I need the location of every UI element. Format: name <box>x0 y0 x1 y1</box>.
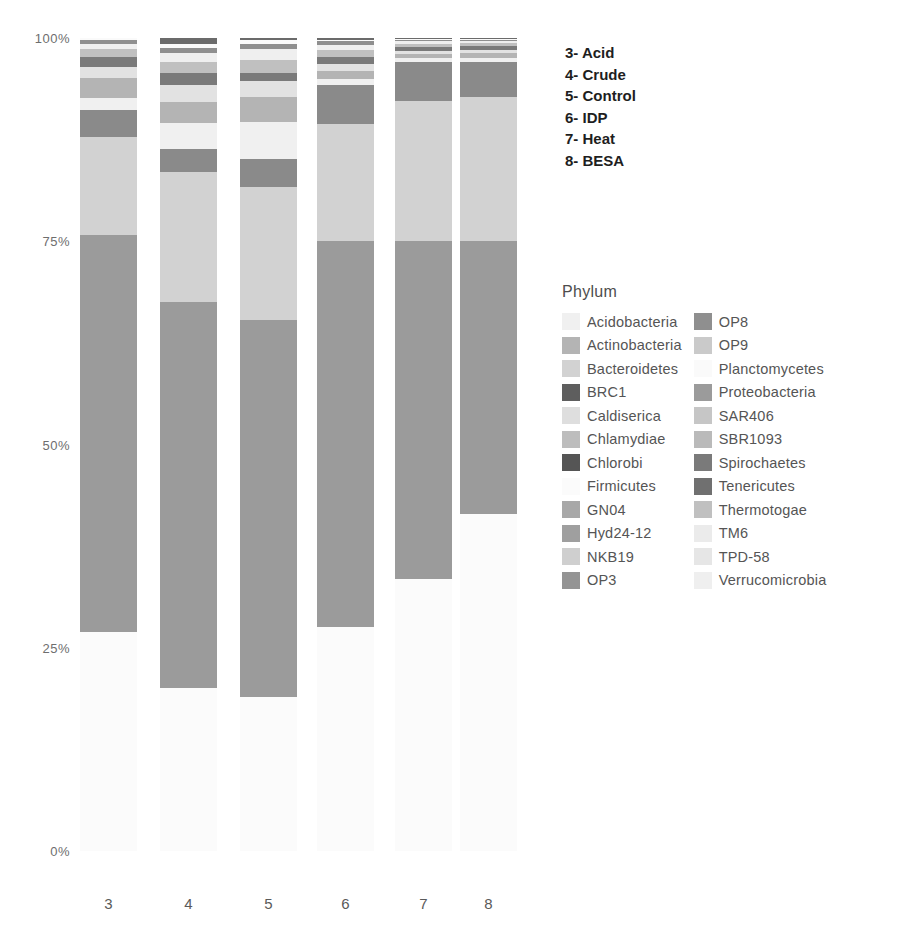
legend-item[interactable]: OP3 <box>562 569 682 593</box>
bar-5[interactable] <box>240 38 297 851</box>
bar-segment <box>240 49 297 60</box>
bar-segment <box>317 41 374 45</box>
legend-item[interactable]: SAR406 <box>694 404 827 428</box>
legend-item[interactable]: Firmicutes <box>562 475 682 499</box>
bar-segment <box>240 44 297 50</box>
legend-item[interactable]: OP9 <box>694 334 827 358</box>
legend-swatch-icon <box>562 407 580 424</box>
legend-swatch-icon <box>562 360 580 377</box>
bar-segment <box>80 49 137 56</box>
legend-item-label: OP9 <box>719 337 749 353</box>
legend-item[interactable]: Caldiserica <box>562 404 682 428</box>
legend-item[interactable]: Thermotogae <box>694 498 827 522</box>
legend-item[interactable]: Proteobacteria <box>694 381 827 405</box>
legend-item[interactable]: Tenericutes <box>694 475 827 499</box>
legend-swatch-icon <box>694 313 712 330</box>
legend-item[interactable]: Chlamydiae <box>562 428 682 452</box>
bar-segment <box>460 58 517 62</box>
bar-segment <box>395 101 452 241</box>
bar-segment <box>317 64 374 71</box>
legend-item-label: Chlamydiae <box>587 431 666 447</box>
legend-column-right: OP8OP9PlanctomycetesProteobacteriaSAR406… <box>694 310 827 592</box>
bar-segment <box>460 39 517 40</box>
legend-item[interactable]: Planctomycetes <box>694 357 827 381</box>
x-tick-label-5: 5 <box>249 895 289 912</box>
annotation-line: 3- Acid <box>565 42 636 64</box>
bar-segment <box>460 62 517 97</box>
legend-item[interactable]: OP8 <box>694 310 827 334</box>
legend-item[interactable]: BRC1 <box>562 381 682 405</box>
plot-area <box>78 38 528 851</box>
legend-item-label: Firmicutes <box>587 478 656 494</box>
bar-segment <box>160 85 217 102</box>
legend-item[interactable]: NKB19 <box>562 545 682 569</box>
bar-segment <box>395 41 452 43</box>
bar-7[interactable] <box>395 38 452 851</box>
legend-swatch-icon <box>694 454 712 471</box>
bar-segment <box>160 53 217 61</box>
bar-segment <box>395 58 452 61</box>
x-axis: 345678 <box>78 895 528 925</box>
bar-4[interactable] <box>160 38 217 851</box>
bar-segment <box>317 50 374 57</box>
bar-segment <box>395 62 452 102</box>
bar-segment <box>460 97 517 241</box>
legend-item-label: OP8 <box>719 314 749 330</box>
legend-item[interactable]: Bacteroidetes <box>562 357 682 381</box>
bar-6[interactable] <box>317 38 374 851</box>
bar-3[interactable] <box>80 38 137 851</box>
legend-item[interactable]: Chlorobi <box>562 451 682 475</box>
legend-item[interactable]: GN04 <box>562 498 682 522</box>
bar-8[interactable] <box>460 38 517 851</box>
legend-swatch-icon <box>694 407 712 424</box>
bar-segment <box>317 79 374 85</box>
x-tick-label-7: 7 <box>404 895 444 912</box>
legend-swatch-icon <box>562 525 580 542</box>
bar-segment <box>317 40 374 42</box>
y-tick-label: 0% <box>50 844 70 859</box>
bar-segment <box>240 73 297 81</box>
bar-segment <box>80 235 137 632</box>
bar-segment <box>460 241 517 513</box>
y-tick-label: 50% <box>42 437 70 452</box>
legend-item[interactable]: SBR1093 <box>694 428 827 452</box>
legend-item[interactable]: TPD-58 <box>694 545 827 569</box>
legend-item[interactable]: Actinobacteria <box>562 334 682 358</box>
bar-segment <box>240 697 297 851</box>
legend-item-label: Chlorobi <box>587 455 643 471</box>
bar-segment <box>80 98 137 110</box>
annotation-line: 8- BESA <box>565 150 636 172</box>
bar-segment <box>317 45 374 50</box>
legend-swatch-icon <box>694 384 712 401</box>
legend-swatch-icon <box>562 548 580 565</box>
legend-item[interactable]: Verrucomicrobia <box>694 569 827 593</box>
bar-segment <box>460 40 517 42</box>
bar-segment <box>240 38 297 40</box>
legend-item-label: Tenericutes <box>719 478 795 494</box>
legend-swatch-icon <box>694 501 712 518</box>
legend-swatch-icon <box>562 384 580 401</box>
legend-item[interactable]: Hyd24-12 <box>562 522 682 546</box>
bar-segment <box>395 38 452 39</box>
bar-segment <box>460 43 517 46</box>
bar-segment <box>460 38 517 39</box>
legend-item[interactable]: TM6 <box>694 522 827 546</box>
legend-item[interactable]: Acidobacteria <box>562 310 682 334</box>
bar-segment <box>160 102 217 123</box>
legend-swatch-icon <box>694 431 712 448</box>
legend-swatch-icon <box>694 360 712 377</box>
legend-item-label: Hyd24-12 <box>587 525 651 541</box>
legend-swatch-icon <box>694 548 712 565</box>
bar-segment <box>80 40 137 43</box>
bar-segment <box>160 48 217 54</box>
legend-column-left: AcidobacteriaActinobacteriaBacteroidetes… <box>562 310 682 592</box>
annotation-line: 7- Heat <box>565 128 636 150</box>
legend-swatch-icon <box>694 478 712 495</box>
legend-item-label: Acidobacteria <box>587 314 677 330</box>
bar-segment <box>80 78 137 98</box>
legend-swatch-icon <box>562 337 580 354</box>
legend-swatch-icon <box>562 431 580 448</box>
bar-segment <box>240 159 297 187</box>
bar-segment <box>317 124 374 241</box>
legend-item[interactable]: Spirochaetes <box>694 451 827 475</box>
